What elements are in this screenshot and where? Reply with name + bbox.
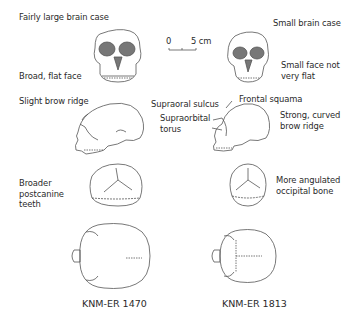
skull-1470-posterior bbox=[90, 164, 142, 206]
skull-1470-frontal bbox=[94, 30, 141, 82]
scale-bar bbox=[169, 48, 196, 50]
label-broad-flat-face: Broad, flat face bbox=[19, 71, 82, 82]
label-small-face-not-very-flat: Small face not very flat bbox=[281, 60, 340, 81]
skull-1813-frontal bbox=[228, 32, 269, 82]
label-more-angulated-occipital-bone: More angulated occipital bone bbox=[276, 175, 340, 196]
skull-1813-superior bbox=[212, 230, 276, 283]
label-strong-curved-brow-ridge: Strong, curved brow ridge bbox=[280, 110, 340, 131]
caption-knm-er-1470: KNM-ER 1470 bbox=[82, 298, 147, 309]
skull-1813-lateral bbox=[213, 104, 269, 151]
scale-bar-start: 0 bbox=[166, 36, 171, 47]
scale-bar-end: 5 cm bbox=[191, 36, 211, 47]
skull-illustrations bbox=[0, 0, 352, 318]
label-fairly-large-brain-case: Fairly large brain case bbox=[19, 12, 109, 23]
label-supraoral-sulcus: Supraoral sulcus bbox=[151, 99, 219, 110]
label-supraorbital-torus: Supraorbital torus bbox=[160, 113, 210, 134]
label-broader-postcanine-teeth: Broader postcanine teeth bbox=[19, 178, 64, 210]
label-frontal-squama: Frontal squama bbox=[239, 94, 302, 105]
skull-1470-lateral bbox=[75, 103, 143, 154]
skull-1470-superior bbox=[72, 224, 150, 289]
label-slight-brow-ridge: Slight brow ridge bbox=[19, 96, 89, 107]
skull-1813-posterior bbox=[230, 164, 266, 206]
caption-knm-er-1813: KNM-ER 1813 bbox=[222, 298, 287, 309]
label-small-brain-case: Small brain case bbox=[273, 18, 341, 29]
